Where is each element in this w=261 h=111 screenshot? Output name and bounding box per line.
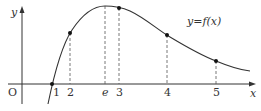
y-axis-label: y <box>10 6 18 19</box>
y-axis-arrow-icon <box>20 6 25 13</box>
tick-label-1: 1 <box>53 86 60 99</box>
graph-canvas: y x O y=f(x) 1 2 e 3 4 5 <box>0 0 261 111</box>
curve-label: y=f(x) <box>186 15 221 28</box>
x-axis-label: x <box>250 87 257 100</box>
function-graph-figure: y x O y=f(x) 1 2 e 3 4 5 <box>0 0 261 111</box>
x-axis-arrow-icon <box>249 82 256 87</box>
tick-label-4: 4 <box>164 86 171 99</box>
tick-label-5: 5 <box>213 86 220 99</box>
origin-label: O <box>8 86 17 99</box>
tick-label-3: 3 <box>116 86 123 99</box>
tick-label-e: e <box>102 86 109 99</box>
tick-label-2: 2 <box>67 86 74 99</box>
